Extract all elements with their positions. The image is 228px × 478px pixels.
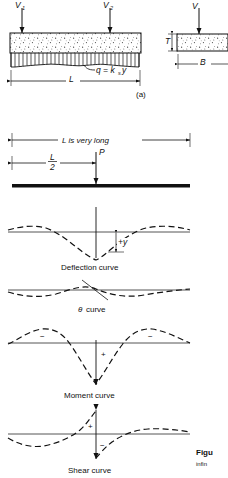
panel-a: V 1 V 2 [10, 0, 146, 99]
shear-trace-left [8, 411, 96, 447]
figure-caption-block: Figu infin [196, 448, 213, 467]
section-load-label: V [192, 1, 199, 11]
section-thickness-label: T [165, 36, 171, 46]
section-thickness-dimension: T [165, 34, 178, 51]
moment-sign-right: − [148, 332, 153, 341]
section-body [177, 34, 228, 51]
soil-reaction-label-tail: y [121, 65, 127, 75]
deflection-curve-caption: Deflection curve [61, 263, 119, 272]
moment-sign-left: − [40, 332, 45, 341]
shear-curve-caption: Shear curve [68, 466, 112, 475]
moment-sign-center: + [101, 350, 106, 359]
theta-trace [8, 287, 190, 297]
half-span-dimension: L 2 [12, 151, 96, 172]
shear-curve: + − Shear curve [8, 410, 190, 475]
half-span-denominator: 2 [49, 162, 55, 172]
point-load-label: P [99, 147, 105, 157]
figure-caption: Figu [196, 448, 213, 457]
soil-reaction-label: q = k [96, 65, 115, 75]
half-span-numerator: L [50, 152, 55, 162]
length-dimension: L is very long [12, 133, 190, 147]
deflection-curve: +y Deflection curve [8, 207, 190, 272]
moment-curve-caption: Moment curve [64, 391, 115, 400]
moment-curve: − + − Moment curve [8, 329, 190, 400]
theta-curve: θ curve [8, 280, 190, 314]
length-note: L is very long [62, 136, 110, 145]
engineering-figure: V 1 V 2 [0, 0, 228, 478]
shear-trace-right [96, 429, 190, 458]
panel-b: L is very long L 2 P [12, 133, 190, 188]
section-width-label: B [200, 57, 206, 67]
point-load-p: P [96, 147, 105, 184]
theta-curve-caption: curve [86, 305, 106, 314]
shear-sign-left: + [88, 422, 93, 431]
soil-reaction-label-sub: s [118, 70, 121, 76]
load-label-v1: V [15, 0, 22, 10]
soil-pressure-arrows [11, 53, 139, 67]
span-label-l: L [69, 74, 74, 84]
load-label-v2: V [103, 0, 110, 10]
figure-caption-sub: infin [196, 461, 207, 467]
load-label-v2-sub: 2 [109, 5, 113, 11]
shear-sign-right: − [100, 441, 105, 450]
moment-trace [8, 329, 190, 384]
load-label-v1-sub: 1 [22, 5, 25, 11]
cross-section: V T B [165, 1, 228, 69]
section-width-dimension: B [178, 54, 228, 69]
deflection-trace [8, 226, 190, 260]
deflection-annotation: +y [118, 237, 128, 247]
panel-a-label: (a) [136, 90, 146, 99]
long-beam [12, 184, 190, 188]
theta-symbol: θ [78, 305, 83, 314]
footing-beam [10, 33, 141, 53]
